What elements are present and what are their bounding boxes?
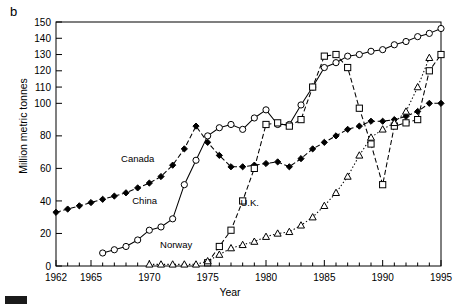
svg-text:1985: 1985 [313, 272, 336, 283]
y-axis-ticks [56, 22, 62, 266]
figure-footer-mark [5, 296, 27, 304]
svg-text:1962: 1962 [45, 272, 68, 283]
series-label-uk: U.K. [240, 197, 258, 208]
svg-text:110: 110 [35, 82, 51, 93]
data-series-group [53, 25, 444, 267]
svg-text:120: 120 [34, 65, 51, 76]
y-axis-tick-labels: 020406080100110120130140150 [34, 17, 51, 272]
svg-text:20: 20 [40, 228, 52, 239]
series-label-canada: Canada [121, 153, 155, 164]
svg-text:130: 130 [34, 49, 51, 60]
svg-text:1970: 1970 [138, 272, 161, 283]
plot-frame [56, 22, 441, 266]
line-chart: 19621965197019751980198519901995 0204060… [0, 0, 460, 304]
series-china [100, 25, 445, 256]
svg-text:1965: 1965 [80, 272, 103, 283]
x-axis-tick-labels: 19621965197019751980198519901995 [45, 272, 453, 283]
series-norway [146, 54, 433, 267]
svg-text:60: 60 [40, 163, 52, 174]
series-annotations: CanadaChinaU.K.Norway [121, 153, 259, 250]
svg-text:1990: 1990 [372, 272, 395, 283]
series-label-norway: Norway [160, 239, 192, 250]
svg-text:100: 100 [34, 98, 51, 109]
svg-text:140: 140 [34, 33, 51, 44]
svg-text:80: 80 [40, 130, 52, 141]
svg-text:0: 0 [45, 261, 51, 272]
svg-text:1975: 1975 [197, 272, 220, 283]
svg-text:150: 150 [34, 17, 51, 28]
series-uk [205, 51, 445, 265]
svg-text:1995: 1995 [430, 272, 453, 283]
series-label-china: China [132, 195, 158, 206]
svg-text:1980: 1980 [255, 272, 278, 283]
figure-panel: b Million metric tonnes Year 19621965197… [0, 0, 460, 304]
svg-text:40: 40 [40, 196, 52, 207]
x-axis-ticks [56, 260, 441, 266]
